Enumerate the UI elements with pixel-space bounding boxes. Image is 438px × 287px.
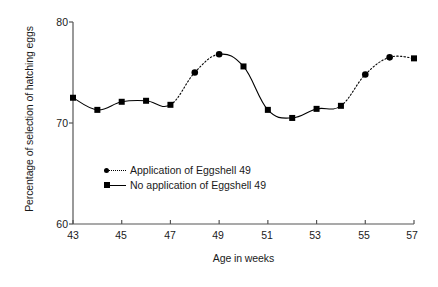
line-segment-55-56 [365, 57, 389, 74]
data-point-square-week-45 [119, 99, 125, 105]
chart-legend: Application of Eggshell 49 No applicatio… [104, 163, 266, 193]
line-segment-56-57 [390, 56, 414, 58]
line-segment-47-48 [170, 73, 194, 105]
line-segment-46-47 [146, 101, 170, 107]
data-point-round-week-48 [191, 69, 198, 76]
data-point-square-week-54 [338, 103, 344, 109]
plot-svg [0, 0, 438, 287]
line-segment-53-54 [317, 106, 341, 109]
data-point-square-week-47 [167, 102, 173, 108]
line-segment-50-51 [244, 66, 268, 109]
axes-group [69, 22, 414, 224]
line-segment-54-55 [341, 75, 365, 106]
legend-label-application: Application of Eggshell 49 [130, 163, 251, 178]
data-point-square-week-57 [411, 55, 417, 61]
legend-marker-solid-square-icon [104, 180, 126, 191]
data-point-round-week-55 [362, 71, 369, 78]
line-segment-49-50 [219, 54, 243, 66]
line-segment-52-53 [292, 109, 316, 118]
data-point-round-week-56 [386, 54, 393, 61]
data-point-square-week-43 [70, 95, 76, 101]
data-point-square-week-44 [94, 107, 100, 113]
line-segment-43-44 [73, 98, 97, 110]
series-markers-group [70, 51, 417, 121]
data-point-square-week-46 [143, 98, 149, 104]
legend-label-no-application: No application of Eggshell 49 [130, 178, 266, 193]
legend-marker-dotted-round-icon [104, 165, 126, 176]
line-segment-51-52 [268, 110, 292, 118]
data-point-round-week-49 [216, 51, 223, 58]
data-point-square-week-53 [314, 106, 320, 112]
data-point-square-week-52 [289, 115, 295, 121]
legend-item-application: Application of Eggshell 49 [104, 163, 266, 178]
data-point-square-week-50 [241, 63, 247, 69]
legend-item-no-application: No application of Eggshell 49 [104, 178, 266, 193]
line-segment-44-45 [97, 102, 121, 110]
chart-container: Percentage of selection of hatching eggs… [0, 0, 438, 287]
line-segment-48-49 [195, 54, 219, 72]
line-segment-45-46 [122, 100, 146, 101]
data-point-square-week-51 [265, 107, 271, 113]
